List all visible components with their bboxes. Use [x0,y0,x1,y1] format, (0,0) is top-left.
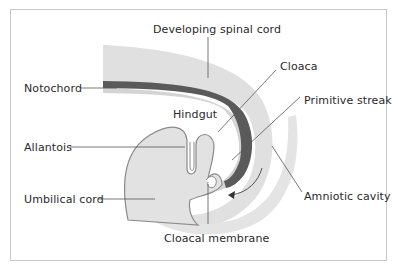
embryo-diagram [0,0,393,266]
label-umbilical-cord: Umbilical cord [24,193,104,206]
label-allantois: Allantois [24,141,72,154]
umbilical-cord-shape [124,127,222,225]
label-developing-spinal-cord: Developing spinal cord [153,23,281,36]
label-cloaca: Cloaca [280,60,318,73]
label-hindgut: Hindgut [173,108,217,121]
label-amniotic-cavity: Amniotic cavity [304,190,391,203]
label-primitive-streak: Primitive streak [304,94,392,107]
label-notochord: Notochord [24,82,82,95]
label-cloacal-membrane: Cloacal membrane [164,232,269,245]
allantois-shape [190,142,194,171]
arrow-head-icon [228,191,235,199]
